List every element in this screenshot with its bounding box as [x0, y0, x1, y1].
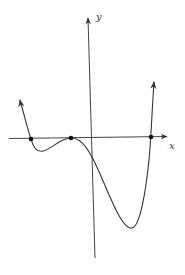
- right-root-point: [149, 135, 154, 140]
- x-axis-label: x: [169, 140, 175, 151]
- polynomial-curve: [20, 82, 154, 228]
- y-axis: [88, 18, 95, 258]
- polynomial-graph: y x: [0, 0, 185, 275]
- double-root-point: [69, 136, 74, 141]
- left-root-point: [29, 137, 34, 142]
- y-axis-label: y: [95, 11, 102, 22]
